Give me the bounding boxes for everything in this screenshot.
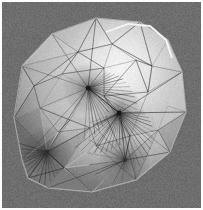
mesh-render-canvas	[0, 0, 203, 210]
figure-root: 3D triangulated mesh surface render	[0, 0, 203, 210]
